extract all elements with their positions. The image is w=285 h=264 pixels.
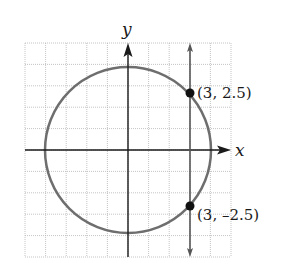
point-upper-label: (3, 2.5) (197, 84, 252, 102)
point-lower-label: (3, –2.5) (197, 206, 259, 224)
point-upper (186, 89, 195, 98)
graph: y x (3, 2.5) (3, –2.5) (0, 0, 285, 264)
point-lower (186, 202, 195, 211)
x-axis-label: x (235, 140, 245, 160)
y-axis-label: y (121, 19, 132, 39)
